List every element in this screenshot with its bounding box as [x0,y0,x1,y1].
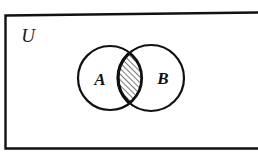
venn-diagram-figure: U A B [0,0,258,156]
set-b-label: B [156,69,168,88]
universal-set-label: U [21,25,36,46]
venn-diagram-canvas: U A B [0,0,258,156]
set-a-label: A [93,70,105,89]
